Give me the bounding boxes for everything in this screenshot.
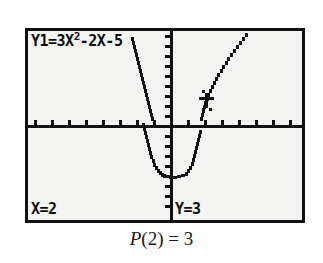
graphing-calculator-screen: Y1=3X2-2X-5 X=2 Y=3: [25, 28, 305, 223]
caption-value: 3: [184, 228, 194, 249]
equation-base: Y1=3X: [31, 32, 74, 50]
equation-readout: Y1=3X2-2X-5: [31, 33, 123, 50]
parabola-curve-y1: [131, 33, 248, 179]
equation-tail: -2X-5: [80, 32, 123, 50]
y-axis: [170, 31, 173, 220]
caption-argument: 2: [148, 228, 158, 249]
x-axis-ticks: [34, 120, 292, 125]
caption-equals-sign: =: [168, 228, 179, 249]
trace-x-readout: X=2: [31, 201, 59, 218]
caption-text: P(2) = 3: [0, 228, 323, 250]
y-axis-ticks: [165, 35, 170, 208]
trace-y-readout: Y=3: [174, 201, 203, 218]
screen-inner: Y1=3X2-2X-5 X=2 Y=3: [28, 31, 302, 220]
graph-plot-area: [28, 31, 302, 220]
trace-cursor-icon: [199, 90, 214, 111]
x-axis: [28, 125, 302, 128]
caption-function-name: P: [130, 228, 142, 249]
